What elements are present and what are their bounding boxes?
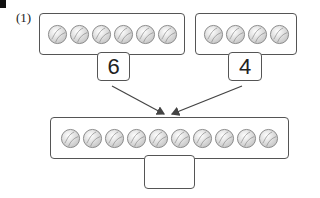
- baseball-icon: [148, 128, 169, 149]
- answer-box[interactable]: [144, 155, 195, 189]
- right-arrow: [172, 86, 242, 114]
- left-arrow: [112, 86, 164, 114]
- baseball-icon: [82, 128, 103, 149]
- baseball-icon: [258, 128, 279, 149]
- total-group-box: [50, 117, 289, 159]
- baseball-icon: [214, 128, 235, 149]
- baseball-icon: [192, 128, 213, 149]
- baseball-icon: [104, 128, 125, 149]
- baseball-icon: [236, 128, 257, 149]
- baseball-icon: [170, 128, 191, 149]
- baseball-icon: [126, 128, 147, 149]
- baseball-icon: [60, 128, 81, 149]
